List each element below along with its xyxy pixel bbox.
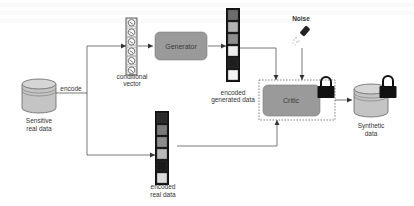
encoded-real-data-vector [155, 111, 169, 185]
vector-cell [157, 125, 167, 135]
encoded-generated-data-vector [226, 8, 240, 82]
vector-cell [127, 19, 136, 27]
synthetic-data-lock-icon [380, 76, 397, 98]
diagram-canvas: encode Sensitive real data conditional v… [0, 0, 414, 206]
vector-cell [127, 57, 136, 65]
sensitive-data-database-icon [22, 79, 56, 113]
vector-cell [127, 38, 136, 46]
synthetic-data-label-1: Synthetic [358, 122, 385, 130]
edge-encode [55, 46, 155, 155]
generator-label: Generator [165, 43, 197, 50]
edge-encoded-real-to-critic [177, 120, 277, 146]
synthetic-data-label-2: data [365, 130, 378, 137]
vector-cell [127, 47, 136, 55]
conditional-vector-label-2: vector [123, 80, 142, 87]
noise-label: Noise [292, 15, 310, 22]
encode-label: encode [60, 85, 82, 92]
critic-label: Critic [283, 97, 299, 104]
sensitive-data-label-1: Sensitive [26, 117, 53, 124]
edge-encoded-gen-to-critic [240, 48, 276, 80]
vector-cell [228, 10, 238, 20]
vector-cell [157, 173, 167, 183]
noise-spray-can-icon [292, 25, 310, 45]
vector-cell [127, 28, 136, 36]
vector-cell [228, 58, 238, 68]
background-ghost-text [0, 3, 414, 23]
encoded-generated-label-1: encoded [221, 89, 246, 96]
diagram-svg: encode Sensitive real data conditional v… [0, 0, 414, 206]
encoded-real-label-2: real data [150, 191, 176, 198]
vector-cell [157, 113, 167, 123]
vector-cell [157, 137, 167, 147]
vector-cell [157, 149, 167, 159]
vector-cell [228, 34, 238, 44]
conditional-vector [126, 18, 137, 75]
vector-cell [228, 22, 238, 32]
vector-cell [228, 70, 238, 80]
vector-cell [228, 46, 238, 56]
sensitive-data-label-2: real data [26, 125, 52, 132]
encoded-generated-label-2: generated data [211, 96, 255, 104]
vector-cell [157, 161, 167, 171]
conditional-vector-label-1: conditional [116, 73, 148, 80]
encoded-real-label-1: encoded [151, 183, 176, 190]
